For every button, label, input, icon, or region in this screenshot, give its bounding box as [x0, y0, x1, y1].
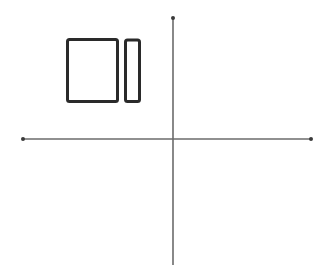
narrow-rectangle	[126, 40, 140, 102]
horizontal-axis-right-endpoint	[309, 137, 313, 141]
diagram-canvas	[0, 0, 330, 265]
horizontal-axis-left-endpoint	[21, 137, 25, 141]
axes-diagram	[0, 0, 330, 265]
vertical-axis-top-endpoint	[171, 16, 175, 20]
large-rectangle	[68, 40, 118, 102]
